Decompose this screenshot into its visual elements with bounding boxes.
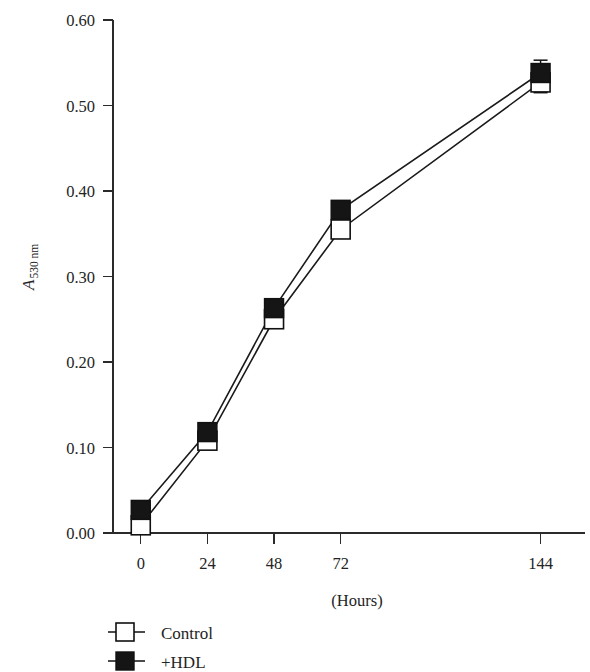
- y-tick-label-0.10: 0.10: [66, 439, 95, 458]
- legend: Control +HDL: [108, 623, 213, 672]
- y-tick-label-0.00: 0.00: [66, 524, 95, 543]
- legend-item-hdl[interactable]: +HDL: [108, 652, 206, 672]
- y-tick-labels: 0.000.100.200.300.400.500.60: [66, 11, 95, 543]
- y-tick-marks: [103, 20, 113, 533]
- x-tick-label-0: 0: [137, 554, 145, 573]
- legend-label-hdl: +HDL: [161, 653, 206, 672]
- data-point-hdl-48[interactable]: [265, 299, 284, 318]
- legend-marker-open-square: [116, 623, 134, 641]
- legend-label-control: Control: [161, 624, 213, 643]
- data-point-hdl-24[interactable]: [198, 423, 217, 442]
- series-line-control: [141, 82, 541, 525]
- y-axis-label: A530 nm: [19, 244, 40, 291]
- x-tick-marks: [141, 533, 541, 544]
- x-axis-label: (Hours): [331, 591, 382, 610]
- x-tick-label-48: 48: [266, 554, 283, 573]
- y-axis-label-main: A: [19, 279, 38, 291]
- figure-container: 0.000.100.200.300.400.500.60 0244872144 …: [0, 0, 590, 672]
- line-chart: 0.000.100.200.300.400.500.60 0244872144 …: [0, 0, 590, 672]
- x-tick-label-144: 144: [528, 554, 553, 573]
- data-point-hdl-0[interactable]: [131, 500, 150, 519]
- data-point-hdl-144[interactable]: [531, 64, 550, 83]
- svg-text:A530 nm: A530 nm: [19, 244, 40, 291]
- x-tick-labels: 0244872144: [137, 554, 553, 573]
- y-tick-label-0.40: 0.40: [66, 182, 95, 201]
- y-tick-label-0.60: 0.60: [66, 11, 95, 30]
- y-axis-label-subscript: 530 nm: [28, 244, 40, 279]
- legend-marker-filled-square: [116, 652, 134, 670]
- data-point-control-72[interactable]: [331, 220, 350, 239]
- y-tick-label-0.30: 0.30: [66, 268, 95, 287]
- x-tick-label-24: 24: [199, 554, 216, 573]
- y-tick-label-0.20: 0.20: [66, 353, 95, 372]
- data-point-hdl-72[interactable]: [331, 200, 350, 219]
- data-series-layer: [131, 60, 550, 535]
- y-tick-label-0.50: 0.50: [66, 97, 95, 116]
- legend-item-control[interactable]: Control: [108, 623, 213, 643]
- x-tick-label-72: 72: [332, 554, 349, 573]
